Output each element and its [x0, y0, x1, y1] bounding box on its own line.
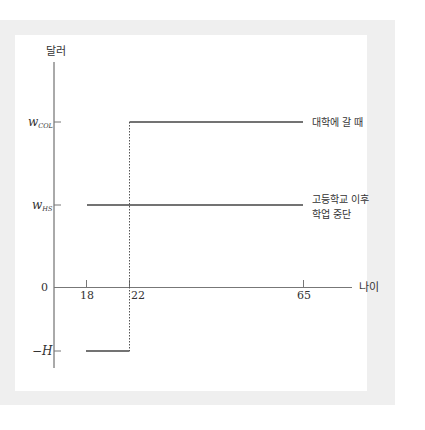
- y-label-neg-h: −H: [32, 344, 53, 358]
- y-axis-label: 달러: [46, 45, 66, 58]
- x-label-65: 65: [297, 289, 311, 302]
- x-axis-label: 나이: [359, 281, 379, 294]
- hs-series-label-line1: 고등학교 이후: [312, 194, 369, 205]
- college-series-label: 대학에 갈 때: [312, 116, 363, 128]
- chart-svg: 달러 wCOL wHS 0 −H 18 22 65 나이 대학에 갈 때 고등학…: [0, 0, 425, 430]
- y-label-wcol: wCOL: [28, 115, 53, 130]
- x-label-22: 22: [131, 289, 145, 302]
- y-label-whs: wHS: [32, 198, 53, 213]
- x-label-18: 18: [80, 289, 94, 302]
- y-label-zero: 0: [41, 281, 48, 294]
- hs-series-label-line2: 학업 중단: [312, 208, 351, 220]
